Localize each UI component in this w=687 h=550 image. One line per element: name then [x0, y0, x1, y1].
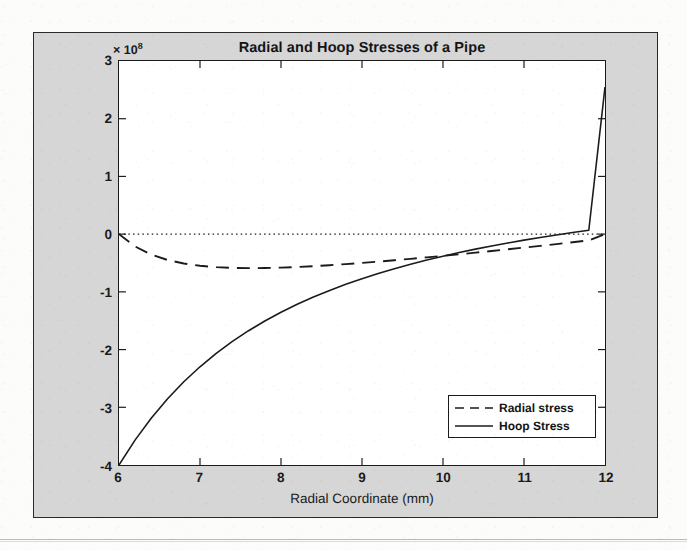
y-axis-exponent-label: × 108: [113, 41, 143, 57]
matlab-figure-window: Radial and Hoop Stresses of a Pipe × 108…: [33, 32, 658, 518]
legend: Radial stress Hoop Stress: [448, 395, 596, 438]
y-axis-tick-label: -3: [82, 401, 112, 416]
y-axis-exponent-mantissa: × 10: [113, 43, 138, 57]
legend-label-hoop-stress: Hoop Stress: [499, 419, 570, 433]
y-axis-tick-label: 3: [82, 53, 112, 68]
x-axis-tick-label: 8: [261, 470, 301, 485]
page-title: Radial and Hoop Stresses of a Pipe: [118, 40, 606, 56]
x-axis-tick-label: 7: [179, 470, 219, 485]
legend-item-hoop-stress: Hoop Stress: [449, 417, 595, 435]
y-axis-exponent-power: 8: [138, 41, 143, 51]
x-axis-tick-labels: 6789101112: [118, 470, 606, 490]
x-axis-label: Radial Coordinate (mm): [118, 491, 606, 506]
legend-item-radial-stress: Radial stress: [449, 399, 595, 417]
x-axis-tick-label: 9: [342, 470, 382, 485]
y-axis-tick-labels: 3210-1-2-3-4: [80, 60, 112, 466]
scanned-page: Radial and Hoop Stresses of a Pipe × 108…: [0, 0, 687, 550]
legend-swatch-solid-line: [454, 421, 494, 431]
page-edge-rule: [0, 539, 687, 540]
x-axis-tick-label: 10: [423, 470, 463, 485]
x-axis-tick-label: 12: [586, 470, 626, 485]
y-axis-tick-label: 1: [82, 169, 112, 184]
x-axis-tick-label: 11: [505, 470, 545, 485]
legend-label-radial-stress: Radial stress: [499, 401, 574, 415]
x-axis-tick-label: 6: [98, 470, 138, 485]
y-axis-tick-label: 2: [82, 111, 112, 126]
y-axis-tick-label: -2: [82, 343, 112, 358]
y-axis-tick-label: 0: [82, 227, 112, 242]
y-axis-tick-label: -1: [82, 285, 112, 300]
legend-swatch-dashed-line: [454, 403, 494, 413]
page-edge-rule-secondary: [0, 541, 687, 542]
